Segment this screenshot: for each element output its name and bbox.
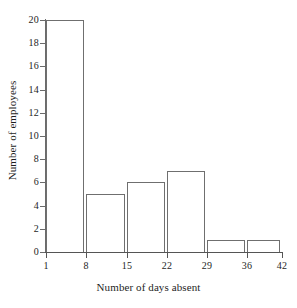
y-tick-label: 16 (0, 61, 39, 71)
y-tick-mark (40, 182, 45, 183)
x-tick-mark (207, 252, 208, 258)
histogram-bar (167, 171, 205, 252)
x-tick-label: 36 (232, 260, 262, 271)
x-tick-mark (86, 252, 87, 258)
x-tick-mark (127, 252, 128, 258)
x-tick-label: 1 (31, 260, 61, 271)
x-tick-label: 42 (267, 260, 297, 271)
y-tick-mark (40, 113, 45, 114)
y-tick-label: 2 (0, 224, 39, 234)
y-tick-mark (40, 20, 45, 21)
x-tick-mark (247, 252, 248, 258)
y-tick-mark (40, 136, 45, 137)
y-tick-mark (40, 43, 45, 44)
x-tick-label: 29 (192, 260, 222, 271)
y-tick-mark (40, 66, 45, 67)
y-tick-label: 20 (0, 15, 39, 25)
histogram-bar (247, 240, 280, 252)
y-tick-label: 4 (0, 201, 39, 211)
y-tick-mark (40, 252, 45, 253)
histogram-bar (127, 182, 165, 252)
histogram-bar (86, 194, 125, 252)
y-tick-mark (40, 229, 45, 230)
x-tick-label: 8 (71, 260, 101, 271)
y-tick-label: 10 (0, 131, 39, 141)
x-tick-mark (167, 252, 168, 258)
y-tick-mark (40, 206, 45, 207)
y-tick-label: 14 (0, 85, 39, 95)
histogram-bar (207, 240, 245, 252)
y-tick-label: 8 (0, 154, 39, 164)
x-axis-title: Number of days absent (0, 281, 297, 294)
histogram-bar (46, 20, 84, 252)
y-tick-label: 12 (0, 108, 39, 118)
x-tick-mark (282, 252, 283, 258)
x-tick-label: 22 (152, 260, 182, 271)
y-tick-mark (40, 159, 45, 160)
x-tick-mark (46, 252, 47, 258)
y-tick-label: 0 (0, 247, 39, 257)
y-tick-label: 18 (0, 38, 39, 48)
histogram-chart: Number of employees 02468101214161820 18… (0, 0, 297, 308)
x-tick-label: 15 (112, 260, 142, 271)
y-tick-mark (40, 90, 45, 91)
y-tick-label: 6 (0, 177, 39, 187)
